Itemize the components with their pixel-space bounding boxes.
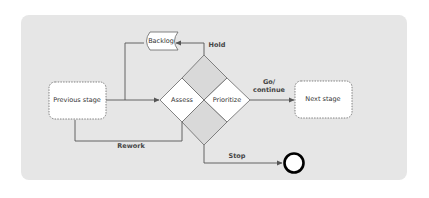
hold-label: Hold	[209, 42, 226, 49]
stop-end-circle	[285, 154, 304, 173]
assess-label: Assess	[171, 97, 193, 104]
stop-label: Stop	[229, 153, 246, 160]
next-stage-label: Next stage	[305, 96, 340, 103]
prioritize-label: Prioritize	[213, 97, 242, 104]
previous-stage-label: Previous stage	[53, 97, 101, 104]
rework-label: Rework	[117, 143, 144, 150]
continue-label: continue	[253, 87, 285, 94]
backlog-label: Backlog	[148, 38, 174, 45]
